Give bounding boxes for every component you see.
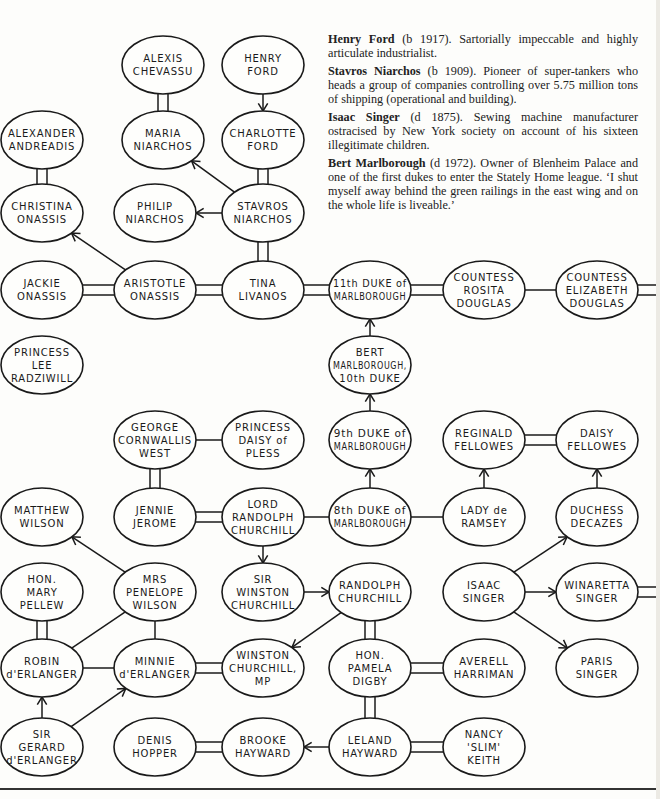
person-name-line: JEROME (132, 518, 177, 529)
person-node-reginald-fellowes: REGINALDFELLOWES (443, 411, 525, 469)
connection-child (592, 469, 601, 488)
person-node-lady-de-ramsey: LADY deRAMSEY (443, 488, 525, 546)
person-name-line: MATTHEW (14, 505, 70, 516)
person-node-rosita-douglas: COUNTESSROSITADOUGLAS (443, 261, 525, 319)
person-name-line: DIGBY (353, 676, 388, 687)
person-node-duke-8: 8th DUKE ofMARLBOROUGH (329, 488, 411, 546)
person-name-line: MRS (143, 574, 167, 585)
person-name-line: NANCY (465, 729, 504, 740)
connection-child (304, 742, 329, 751)
connection-child (525, 587, 556, 596)
person-name-line: DAISY (580, 428, 614, 439)
node-ellipse (329, 488, 411, 546)
person-node-averell-harriman: AVERELLHARRIMAN (443, 639, 525, 697)
note-stavros-niarchos: Stavros Niarchos (b 1909). Pioneer of su… (328, 64, 638, 106)
person-name-line: PENELOPE (126, 587, 184, 598)
person-node-paris-singer: PARISSINGER (556, 639, 638, 697)
person-node-minnie-derlanger: MINNIEd'ERLANGER (114, 639, 196, 697)
person-name-line: CORNWALLIS (118, 435, 192, 446)
node-ellipse (329, 261, 411, 319)
person-name-line: 10th DUKE (339, 373, 400, 384)
node-ellipse (222, 718, 304, 776)
connection-marriage (37, 169, 47, 184)
person-name-line: STAVROS (237, 201, 289, 212)
connection-child (514, 612, 568, 648)
person-node-charlotte-ford: CHARLOTTEFORD (222, 111, 304, 169)
connection-child (479, 469, 488, 488)
connection-child (304, 587, 329, 596)
person-name-line: 8th DUKE of (334, 505, 407, 516)
node-ellipse (443, 411, 525, 469)
person-name-line: DOUGLAS (456, 298, 511, 309)
person-name-line: TINA (249, 278, 277, 289)
connection-child (365, 469, 374, 488)
connection-marriage (196, 285, 222, 295)
person-name-line: ARISTOTLE (124, 278, 186, 289)
person-name-line: COUNTESS (566, 272, 627, 283)
person-name-line: COUNTESS (453, 272, 514, 283)
person-node-stavros-niarchos: STAVROSNIARCHOS (222, 184, 304, 242)
connection-marriage (196, 663, 222, 673)
person-name-line: GEORGE (131, 422, 179, 433)
person-name-line: KEITH (467, 755, 500, 766)
person-name-line: WINSTON (236, 650, 290, 661)
person-name-line: d'ERLANGER (6, 669, 78, 680)
node-ellipse (114, 639, 196, 697)
person-name-line: HON. (355, 650, 384, 661)
person-name-line: PRINCESS (235, 422, 291, 433)
person-name-line: PHILIP (137, 201, 173, 212)
person-name-line: WILSON (133, 600, 178, 611)
person-node-alexander-andreadis: ALEXANDERANDREADIS (1, 111, 83, 169)
connection-child (37, 697, 46, 718)
node-ellipse (114, 261, 196, 319)
person-name-line: RANDOLPH (232, 512, 294, 523)
node-ellipse (329, 718, 411, 776)
person-name-line: ONASSIS (17, 291, 67, 302)
person-node-philip-niarchos: PHILIPNIARCHOS (114, 184, 196, 242)
person-name-line: CHURCHILL, (229, 663, 297, 674)
person-node-bert-marlborough: BERTMARLBOROUGH,10th DUKE (329, 336, 411, 394)
person-node-duchess-decazes: DUCHESSDECAZES (556, 488, 638, 546)
node-ellipse (114, 718, 196, 776)
person-name-line: ROBIN (24, 656, 60, 667)
person-name-line: JENNIE (135, 505, 174, 516)
person-name-line: PARIS (581, 656, 613, 667)
connection-child (258, 94, 267, 111)
connection-marriage (411, 663, 443, 673)
person-name-line: MARLBOROUGH, (333, 360, 407, 371)
arrowhead-icon (558, 640, 567, 648)
person-node-winston-mp: WINSTONCHURCHILL,MP (222, 639, 304, 697)
person-node-isaac-singer: ISAACSINGER (443, 563, 525, 621)
person-name-line: ELIZABETH (566, 285, 629, 296)
arrowhead-icon (72, 537, 81, 545)
person-name-line: GERARD (19, 742, 66, 753)
person-name-line: 9th DUKE of (334, 428, 407, 439)
person-node-denis-hopper: DENISHOPPER (114, 718, 196, 776)
person-name-line: 'SLIM' (467, 742, 501, 753)
person-node-sir-winston: SIRWINSTONCHURCHILL (222, 563, 304, 621)
note-name: Bert Marlborough (328, 156, 426, 170)
node-ellipse (556, 563, 638, 621)
person-name-line: PELLEW (20, 600, 65, 611)
node-ellipse (122, 36, 204, 94)
person-name-line: CHURCHILL (338, 593, 402, 604)
connection-marriage (37, 621, 47, 639)
connection-marriage (304, 285, 329, 295)
connection-link (72, 612, 126, 648)
note-isaac-singer: Isaac Singer (d 1875). Sewing machine ma… (328, 110, 638, 152)
person-name-line: LORD (248, 499, 279, 510)
person-node-jennie-jerome: JENNIEJEROME (114, 488, 196, 546)
node-ellipse (1, 639, 83, 697)
person-name-line: MARY (26, 587, 57, 598)
node-ellipse (556, 639, 638, 697)
person-name-line: DUCHESS (570, 505, 624, 516)
person-name-line: DAISY of (239, 435, 288, 446)
biographical-notes: Henry Ford (b 1917). Sartorially impecca… (328, 32, 638, 216)
note-henry-ford: Henry Ford (b 1917). Sartorially impecca… (328, 32, 638, 60)
person-name-line: ALEXANDER (8, 128, 76, 139)
person-node-lord-randolph: LORDRANDOLPHCHURCHILL (222, 488, 304, 546)
person-name-line: PAMELA (348, 663, 393, 674)
person-name-line: HAYWARD (235, 748, 291, 759)
person-name-line: DENIS (138, 735, 173, 746)
person-node-tina-livanos: TINALIVANOS (222, 261, 304, 319)
